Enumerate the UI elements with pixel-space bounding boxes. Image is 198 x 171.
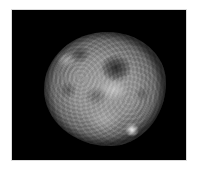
micrograph-frame	[12, 10, 186, 160]
cell-nucleus	[44, 32, 166, 146]
